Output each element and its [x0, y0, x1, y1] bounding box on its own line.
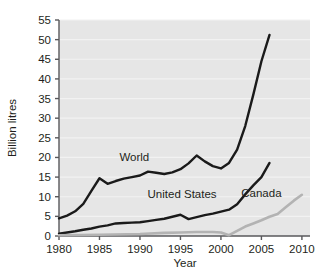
x-tick-label: 2000	[208, 243, 234, 255]
y-tick-label: 5	[45, 210, 51, 222]
y-tick-label: 30	[38, 112, 51, 124]
y-tick-label: 35	[38, 93, 51, 105]
y-tick-label: 15	[38, 171, 51, 183]
y-tick-label: 40	[38, 73, 51, 85]
y-tick-label: 20	[38, 151, 51, 163]
y-tick-label: 55	[38, 14, 51, 26]
figure-container: 0510152025303540455055 19801985199019952…	[0, 0, 326, 280]
x-tick-label: 2010	[289, 243, 315, 255]
x-axis-title: Year	[173, 257, 196, 269]
x-tick-label: 1980	[46, 243, 72, 255]
series-label-united-states: United States	[148, 188, 217, 200]
x-tick-label: 1990	[127, 243, 153, 255]
y-tick-label: 45	[38, 53, 51, 65]
x-tick-label: 1985	[87, 243, 113, 255]
series-label-canada: Canada	[241, 187, 282, 199]
y-tick-label: 0	[45, 230, 51, 242]
y-tick-label: 25	[38, 132, 51, 144]
y-tick-label: 50	[38, 34, 51, 46]
x-tick-label: 2005	[249, 243, 275, 255]
y-axis-title: Billion litres	[6, 99, 18, 157]
y-tick-label: 10	[38, 191, 51, 203]
plot-area-background	[59, 20, 310, 236]
clipped-caption	[6, 276, 266, 280]
line-chart: 0510152025303540455055 19801985199019952…	[0, 0, 326, 280]
series-label-world: World	[119, 151, 149, 163]
x-tick-label: 1995	[168, 243, 194, 255]
